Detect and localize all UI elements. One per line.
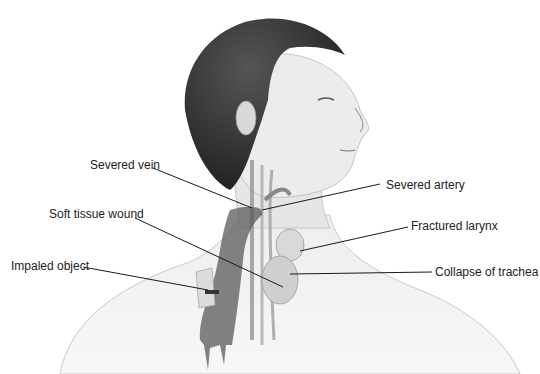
neck-injury-diagram: Severed vein Soft tissue wound Impaled o… [0,0,540,374]
label-severed-artery: Severed artery [386,178,465,192]
label-severed-vein: Severed vein [90,158,160,172]
label-fractured-larynx: Fractured larynx [411,219,498,233]
label-soft-tissue-wound: Soft tissue wound [49,207,144,221]
label-collapse-of-trachea: Collapse of trachea [435,265,538,279]
label-impaled-object: Impaled object [11,259,89,273]
ear-shape [236,101,256,135]
